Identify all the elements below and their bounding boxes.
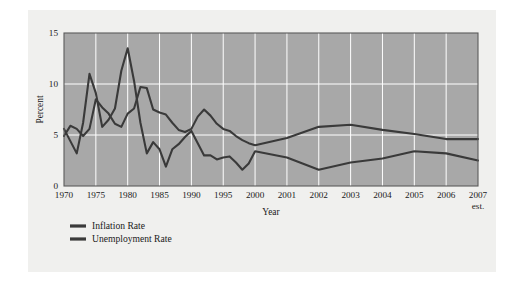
x-tick-label-1980: 1980 bbox=[119, 190, 138, 200]
x-tick-label-2002: 2002 bbox=[310, 190, 329, 200]
chart-svg: 051015 197019751980198519901995200020012… bbox=[28, 10, 496, 272]
chart-legend: Inflation RateUnemployment Rate bbox=[70, 220, 172, 244]
x-tick-label-1985: 1985 bbox=[150, 190, 169, 200]
x-tick-label-2003: 2003 bbox=[341, 190, 360, 200]
y-axis-ticks: 051015 bbox=[49, 28, 59, 191]
x-tick-label-2004: 2004 bbox=[373, 190, 392, 200]
y-axis-title: Percent bbox=[35, 95, 45, 124]
legend-label-unemployment-rate: Unemployment Rate bbox=[92, 233, 172, 244]
y-tick-label-5: 5 bbox=[53, 130, 58, 140]
legend-label-inflation-rate: Inflation Rate bbox=[92, 220, 145, 231]
x-tick-label-2007: 2007 bbox=[469, 190, 488, 200]
x-axis-estimate-note: est. bbox=[472, 201, 485, 211]
x-axis-title: Year bbox=[262, 207, 280, 217]
x-tick-label-2001: 2001 bbox=[278, 190, 297, 200]
x-tick-label-1990: 1990 bbox=[182, 190, 201, 200]
figure-panel: 051015 197019751980198519901995200020012… bbox=[28, 10, 496, 272]
y-tick-label-15: 15 bbox=[49, 28, 59, 38]
x-tick-label-2006: 2006 bbox=[437, 190, 456, 200]
x-tick-label-1970: 1970 bbox=[55, 190, 74, 200]
y-tick-label-10: 10 bbox=[49, 79, 59, 89]
x-tick-label-2000: 2000 bbox=[246, 190, 265, 200]
line-chart: 051015 197019751980198519901995200020012… bbox=[28, 10, 496, 272]
x-tick-label-1995: 1995 bbox=[214, 190, 233, 200]
x-tick-label-1975: 1975 bbox=[87, 190, 106, 200]
x-tick-label-2005: 2005 bbox=[405, 190, 424, 200]
